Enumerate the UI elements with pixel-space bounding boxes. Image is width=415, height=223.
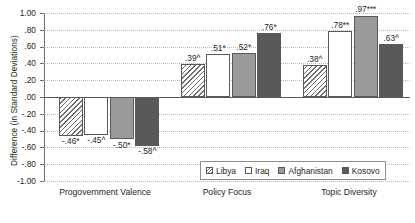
bar-kosovo-policy-focus	[257, 33, 281, 97]
y-axis-tick	[40, 181, 44, 182]
bar-libya-progovernment-valence	[59, 97, 83, 136]
bar-libya-topic-diversity	[303, 65, 327, 97]
bar-value-label: .63^	[368, 34, 414, 42]
bar-chart: Difference (in Standard Deviations) 1.00…	[0, 0, 415, 223]
legend-swatch-icon	[206, 167, 213, 174]
y-axis-tick	[40, 13, 44, 14]
y-axis-tick-label: .00	[2, 93, 36, 101]
y-axis-tick-label: -.20	[2, 110, 36, 118]
legend-label: Afghanistan	[288, 166, 332, 176]
y-axis-tick-label: -1.00	[2, 177, 36, 185]
bar-value-label: -.58^	[124, 147, 170, 155]
bar-afghanistan-topic-diversity	[354, 16, 378, 97]
bar-iraq-progovernment-valence	[84, 97, 108, 135]
legend-swatch-icon	[278, 167, 285, 174]
bar-iraq-topic-diversity	[328, 31, 352, 97]
bar-iraq-policy-focus	[206, 54, 230, 97]
legend-label: Iraq	[255, 166, 269, 176]
bar-afghanistan-progovernment-valence	[110, 97, 134, 139]
y-axis-tick	[40, 47, 44, 48]
y-axis-tick	[40, 114, 44, 115]
legend-label: Kosovo	[352, 166, 380, 176]
bar-kosovo-progovernment-valence	[135, 97, 159, 146]
bar-value-label: .76*	[246, 23, 292, 31]
x-axis-group-label: Topic Diversity	[274, 187, 415, 197]
plot-area: 1.00.80.60.40.20.00-.20-.40-.60-.80-1.00…	[44, 13, 410, 181]
legend-swatch-icon	[342, 167, 349, 174]
y-axis-tick-label: -.60	[2, 143, 36, 151]
y-axis-tick-label: 1.00	[2, 9, 36, 17]
legend-item-afghanistan: Afghanistan	[278, 166, 332, 176]
bar-kosovo-topic-diversity	[379, 44, 403, 97]
y-axis-tick-label: -.40	[2, 126, 36, 134]
y-axis-tick	[40, 63, 44, 64]
legend-item-libya: Libya	[206, 166, 236, 176]
legend-item-kosovo: Kosovo	[342, 166, 380, 176]
y-axis-tick	[40, 80, 44, 81]
y-axis-tick-label: -.80	[2, 160, 36, 168]
y-axis-tick-label: .60	[2, 42, 36, 50]
gridline	[44, 181, 410, 182]
y-axis-tick	[40, 97, 44, 98]
y-axis-tick-label: .40	[2, 59, 36, 67]
legend-item-iraq: Iraq	[245, 166, 269, 176]
y-axis-tick	[40, 131, 44, 132]
y-axis-tick-label: .20	[2, 76, 36, 84]
legend-label: Libya	[216, 166, 236, 176]
y-axis-tick	[40, 147, 44, 148]
y-axis-tick	[40, 30, 44, 31]
legend-swatch-icon	[245, 167, 252, 174]
y-axis-tick-label: .80	[2, 26, 36, 34]
y-axis-tick	[40, 164, 44, 165]
chart-legend: LibyaIraqAfghanistanKosovo	[200, 161, 386, 180]
bar-libya-policy-focus	[181, 64, 205, 97]
bar-afghanistan-policy-focus	[232, 53, 256, 97]
bar-value-label: .97***	[343, 5, 389, 13]
